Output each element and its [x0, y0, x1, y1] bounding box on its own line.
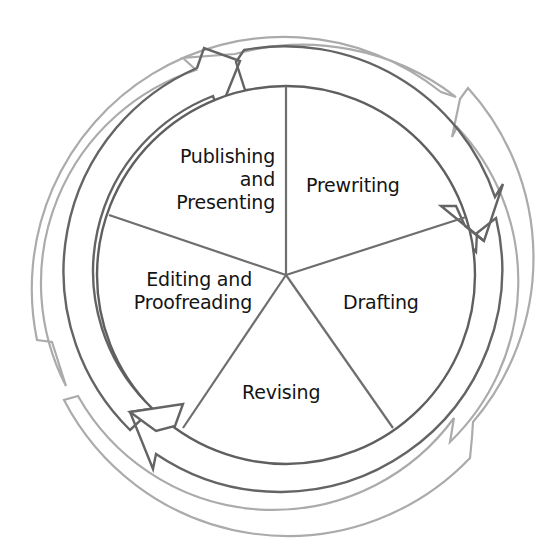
writing-process-cycle-diagram: [0, 0, 552, 548]
inner-notch-bottom-left: [130, 404, 183, 431]
stage-label-line: Drafting: [343, 291, 419, 314]
stage-label-drafting: Drafting: [343, 291, 419, 314]
stage-label-line: Publishing: [158, 145, 275, 168]
stage-label-line: Presenting: [158, 191, 275, 214]
stage-label-line: Proofreading: [104, 291, 252, 314]
stage-label-line: and: [158, 168, 275, 191]
stage-label-line: Prewriting: [306, 174, 400, 197]
stage-label-revising: Revising: [242, 381, 320, 404]
stage-label-line: Revising: [242, 381, 320, 404]
stage-label-editing: Editing and Proofreading: [104, 268, 252, 314]
stage-label-line: Editing and: [104, 268, 252, 291]
stage-label-publishing: Publishing and Presenting: [158, 145, 275, 214]
stage-label-prewriting: Prewriting: [306, 174, 400, 197]
